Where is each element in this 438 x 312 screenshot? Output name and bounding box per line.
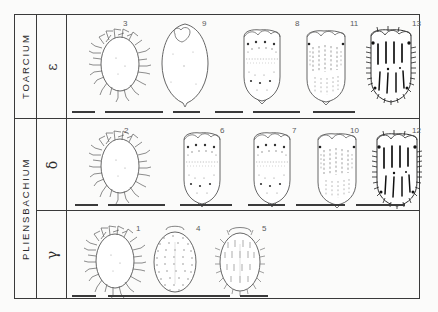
figure-label-9: 9: [202, 19, 206, 28]
figure-4: [154, 226, 196, 292]
figure-label-8: 8: [295, 19, 299, 28]
figure-6: [184, 133, 220, 207]
figure-label-4: 4: [196, 224, 200, 233]
figure-11: [307, 31, 345, 105]
figure-label-10: 10: [350, 126, 359, 135]
figure-label-1: 1: [136, 224, 140, 233]
figure-label-5: 5: [262, 224, 266, 233]
figure-label-7: 7: [292, 126, 296, 135]
figure-10: [318, 134, 356, 208]
figure-label-6: 6: [220, 126, 224, 135]
figure-5: [215, 228, 265, 297]
figure-2: [89, 131, 151, 204]
figure-12: [372, 130, 422, 209]
specimen-drawings: [0, 0, 438, 312]
figure-label-11: 11: [350, 19, 358, 28]
figure-8: [244, 30, 280, 104]
figure-label-12: 12: [412, 126, 421, 135]
figure-9: [162, 24, 208, 107]
figure-label-2: 2: [124, 126, 128, 135]
figure-7: [254, 133, 290, 207]
figure-3: [89, 29, 151, 102]
figure-13: [366, 26, 416, 105]
figure-label-3: 3: [123, 19, 127, 28]
figure-label-13: 13: [412, 19, 421, 28]
figure-1: [84, 226, 146, 299]
figure-plate: TOARCIUM PLIENSBACHIUM ε δ γ: [0, 0, 438, 312]
